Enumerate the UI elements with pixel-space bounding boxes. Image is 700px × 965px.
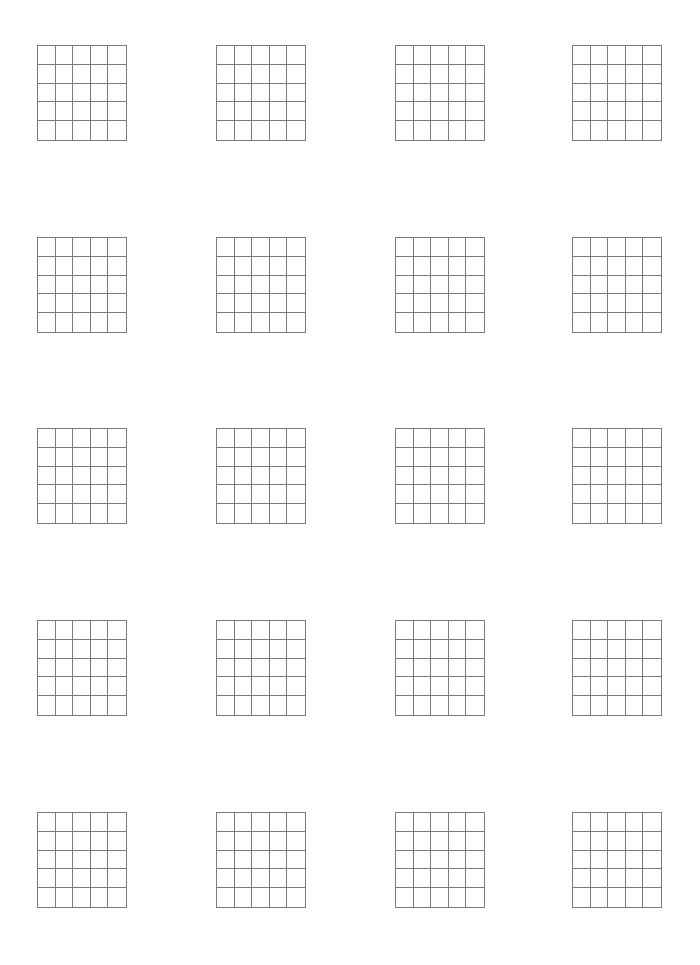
grid-cell [591, 696, 609, 715]
grid-cell [38, 677, 56, 696]
grid-cell [466, 832, 484, 851]
grid-cell [235, 102, 253, 121]
grid-cell [217, 621, 235, 640]
grid-cell [252, 888, 270, 907]
empty-grid-r3-c4 [572, 428, 662, 524]
grid-cell [270, 659, 288, 678]
grid-cell [108, 504, 126, 523]
grid-cell [73, 832, 91, 851]
grid-cell [449, 504, 467, 523]
grid-cell [38, 485, 56, 504]
grid-cell [643, 238, 661, 257]
grid-cell [270, 696, 288, 715]
grid-cell [270, 65, 288, 84]
grid-cell [449, 659, 467, 678]
grid-cell [591, 851, 609, 870]
grid-cell [414, 677, 432, 696]
grid-cell [38, 294, 56, 313]
grid-cell [626, 813, 644, 832]
grid-cell [91, 46, 109, 65]
grid-cell [626, 640, 644, 659]
empty-grid-r2-c3 [395, 237, 485, 333]
grid-cell [626, 46, 644, 65]
grid-cell [38, 257, 56, 276]
grid-cell [643, 294, 661, 313]
grid-cell [414, 485, 432, 504]
grid-cell [235, 640, 253, 659]
grid-cell [108, 832, 126, 851]
grid-cell [396, 121, 414, 140]
grid-cell [466, 659, 484, 678]
grid-cell [414, 659, 432, 678]
grid-cell [431, 640, 449, 659]
grid-cell [626, 448, 644, 467]
grid-cell [414, 448, 432, 467]
grid-cell [252, 257, 270, 276]
grid-cell [270, 294, 288, 313]
grid-cell [449, 121, 467, 140]
grid-cell [217, 851, 235, 870]
grid-cell [414, 621, 432, 640]
grid-cell [643, 869, 661, 888]
grid-cell [643, 888, 661, 907]
grid-cell [591, 65, 609, 84]
grid-cell [287, 46, 305, 65]
grid-cell [56, 851, 74, 870]
grid-cell [287, 238, 305, 257]
grid-cell [608, 659, 626, 678]
grid-cell [591, 869, 609, 888]
grid-cell [449, 467, 467, 486]
grid-cell [287, 832, 305, 851]
grid-cell [270, 276, 288, 295]
grid-cell [626, 832, 644, 851]
grid-cell [573, 238, 591, 257]
grid-cell [396, 46, 414, 65]
grid-cell [591, 659, 609, 678]
grid-cell [270, 888, 288, 907]
grid-cell [56, 504, 74, 523]
grid-cell [73, 294, 91, 313]
grid-cell [91, 659, 109, 678]
grid-cell [608, 84, 626, 103]
grid-cell [108, 294, 126, 313]
grid-cell [449, 84, 467, 103]
grid-cell [466, 640, 484, 659]
grid-cell [91, 238, 109, 257]
grid-cell [414, 238, 432, 257]
grid-cell [270, 869, 288, 888]
grid-cell [73, 121, 91, 140]
grid-cell [91, 467, 109, 486]
grid-cell [573, 429, 591, 448]
grid-cell [591, 832, 609, 851]
grid-cell [252, 832, 270, 851]
grid-cell [414, 696, 432, 715]
grid-cell [287, 851, 305, 870]
grid-cell [252, 485, 270, 504]
grid-cell [626, 504, 644, 523]
grid-cell [591, 448, 609, 467]
grid-cell [449, 640, 467, 659]
grid-cell [626, 313, 644, 332]
grid-cell [252, 84, 270, 103]
grid-cell [626, 467, 644, 486]
grid-cell [38, 851, 56, 870]
grid-cell [217, 888, 235, 907]
grid-cell [643, 313, 661, 332]
grid-cell [235, 659, 253, 678]
grid-cell [270, 621, 288, 640]
grid-cell [252, 313, 270, 332]
grid-cell [414, 257, 432, 276]
grid-cell [108, 65, 126, 84]
grid-cell [56, 448, 74, 467]
grid-cell [608, 504, 626, 523]
grid-cell [287, 467, 305, 486]
grid-cell [396, 313, 414, 332]
grid-cell [431, 257, 449, 276]
empty-grid-r3-c2 [216, 428, 306, 524]
grid-cell [573, 257, 591, 276]
grid-cell [217, 640, 235, 659]
grid-cell [38, 659, 56, 678]
grid-cell [573, 832, 591, 851]
grid-cell [56, 869, 74, 888]
grid-cell [108, 121, 126, 140]
